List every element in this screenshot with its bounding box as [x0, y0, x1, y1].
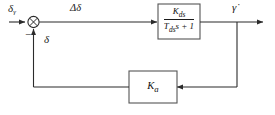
plant-denominator: Tdss + 1: [158, 21, 200, 34]
error-signal-label: Δδ: [70, 3, 81, 14]
plant-numerator: Kds: [158, 6, 200, 19]
diagram-canvas: [0, 0, 275, 115]
block-diagram: δγ Δδ − δ γ̇ Kds Tdss + 1 Ka: [0, 0, 275, 115]
input-signal-label: δγ: [8, 3, 16, 15]
feedback-signal-label: δ: [44, 34, 49, 45]
plant-transfer-function-label: Kds Tdss + 1: [158, 6, 200, 34]
feedback-gain-label: Ka: [131, 80, 175, 94]
summing-junction-minus-sign: −: [25, 29, 31, 40]
output-signal-label: γ̇: [232, 2, 236, 13]
